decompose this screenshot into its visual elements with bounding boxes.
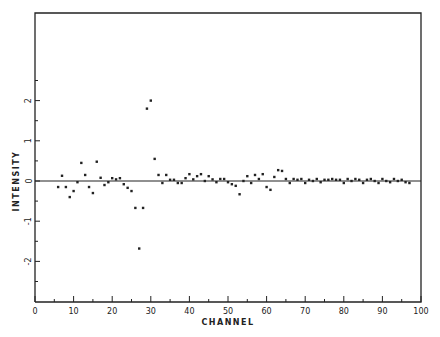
data-point bbox=[404, 181, 406, 183]
data-point bbox=[215, 181, 217, 183]
data-point bbox=[138, 247, 140, 249]
data-point bbox=[316, 178, 318, 180]
data-point bbox=[285, 178, 287, 180]
data-point bbox=[265, 186, 267, 188]
data-point bbox=[262, 173, 264, 175]
data-point bbox=[161, 182, 163, 184]
data-point bbox=[96, 161, 98, 163]
data-point bbox=[319, 181, 321, 183]
x-axis-label: CHANNEL bbox=[201, 318, 254, 327]
data-point bbox=[389, 181, 391, 183]
data-point bbox=[107, 181, 109, 183]
data-point bbox=[273, 176, 275, 178]
data-point bbox=[177, 182, 179, 184]
data-point bbox=[76, 181, 78, 183]
data-point bbox=[350, 180, 352, 182]
data-point bbox=[300, 178, 302, 180]
data-point bbox=[397, 180, 399, 182]
data-point bbox=[393, 178, 395, 180]
data-point bbox=[331, 178, 333, 180]
data-point bbox=[296, 179, 298, 181]
data-point bbox=[231, 183, 233, 185]
data-point bbox=[323, 179, 325, 181]
data-point bbox=[370, 178, 372, 180]
x-tick-label: 50 bbox=[223, 307, 233, 316]
data-point bbox=[281, 170, 283, 172]
data-point bbox=[123, 183, 125, 185]
x-tick-label: 80 bbox=[339, 307, 349, 316]
data-point bbox=[80, 162, 82, 164]
data-point bbox=[346, 178, 348, 180]
x-tick-label: 0 bbox=[32, 307, 37, 316]
data-point bbox=[169, 179, 171, 181]
data-point bbox=[134, 207, 136, 209]
plot-border bbox=[35, 13, 421, 302]
data-point bbox=[327, 179, 329, 181]
data-point bbox=[157, 174, 159, 176]
data-point bbox=[99, 177, 101, 179]
y-axis-label: INTENSITY bbox=[12, 151, 21, 212]
data-point bbox=[126, 187, 128, 189]
x-tick-label: 100 bbox=[413, 307, 428, 316]
data-point bbox=[308, 179, 310, 181]
data-point bbox=[88, 186, 90, 188]
data-point bbox=[246, 175, 248, 177]
data-point bbox=[289, 182, 291, 184]
data-point bbox=[343, 182, 345, 184]
data-point bbox=[238, 193, 240, 195]
data-point bbox=[184, 177, 186, 179]
data-point bbox=[312, 180, 314, 182]
data-point bbox=[385, 180, 387, 182]
y-tick-label: 0 bbox=[25, 178, 34, 183]
data-point bbox=[153, 158, 155, 160]
data-point bbox=[103, 184, 105, 186]
data-point bbox=[381, 178, 383, 180]
data-point bbox=[165, 174, 167, 176]
data-point bbox=[254, 174, 256, 176]
y-tick-label: 2 bbox=[25, 98, 34, 103]
data-point bbox=[358, 179, 360, 181]
x-tick-label: 30 bbox=[146, 307, 156, 316]
data-point bbox=[250, 182, 252, 184]
data-point bbox=[366, 179, 368, 181]
data-point bbox=[227, 181, 229, 183]
data-point bbox=[173, 179, 175, 181]
data-point bbox=[69, 196, 71, 198]
plot-frame bbox=[35, 13, 421, 302]
data-point bbox=[111, 177, 113, 179]
data-point bbox=[142, 207, 144, 209]
data-point bbox=[200, 173, 202, 175]
data-point bbox=[211, 178, 213, 180]
data-point bbox=[208, 175, 210, 177]
data-point bbox=[362, 182, 364, 184]
data-point bbox=[339, 179, 341, 181]
scatter-chart: 0102030405060708090100 -2-1012 CHANNEL I… bbox=[0, 0, 440, 337]
x-tick-label: 20 bbox=[107, 307, 117, 316]
data-point bbox=[304, 182, 306, 184]
x-tick-label: 60 bbox=[262, 307, 272, 316]
data-point bbox=[72, 190, 74, 192]
data-point bbox=[377, 182, 379, 184]
data-point bbox=[84, 174, 86, 176]
data-point bbox=[196, 175, 198, 177]
data-point bbox=[223, 178, 225, 180]
data-point bbox=[335, 179, 337, 181]
data-point bbox=[401, 179, 403, 181]
data-point bbox=[204, 180, 206, 182]
data-point bbox=[130, 190, 132, 192]
data-point bbox=[65, 186, 67, 188]
data-point bbox=[188, 173, 190, 175]
data-point bbox=[57, 186, 59, 188]
data-point bbox=[235, 185, 237, 187]
data-point bbox=[292, 178, 294, 180]
data-point bbox=[354, 178, 356, 180]
y-tick-label: -2 bbox=[25, 257, 34, 265]
data-point bbox=[115, 178, 117, 180]
data-point bbox=[92, 192, 94, 194]
data-point bbox=[373, 180, 375, 182]
data-point bbox=[269, 189, 271, 191]
data-point bbox=[277, 169, 279, 171]
data-point bbox=[242, 180, 244, 182]
data-point bbox=[150, 99, 152, 101]
x-tick-label: 10 bbox=[69, 307, 79, 316]
